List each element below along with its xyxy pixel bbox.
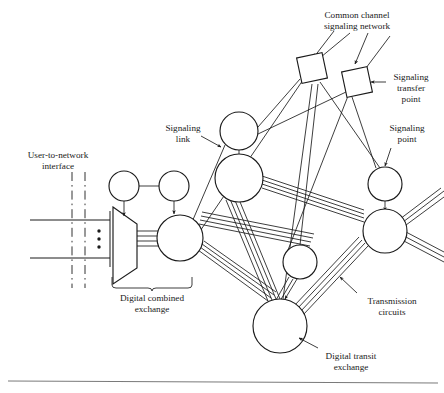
sl-line1: Signaling <box>165 123 201 133</box>
tc-line1: Transmission <box>367 296 417 306</box>
digital-combined-exchange-trapezoid[interactable] <box>113 207 159 284</box>
sp-line2: point <box>398 134 417 144</box>
label-signaling-transfer-point: Signaling transfer point <box>393 72 429 104</box>
label-digital-transit-exchange: Digital transit exchange <box>326 351 377 372</box>
label-signaling-point: Signaling point <box>389 123 425 144</box>
bottom-rule <box>8 381 438 383</box>
dce-line2: exchange <box>135 304 170 314</box>
dce-line1: Digital combined <box>120 293 184 303</box>
signaling-transfer-point-left[interactable] <box>297 53 328 84</box>
ellipsis-dot <box>97 237 100 240</box>
ellipsis-dot <box>97 245 100 248</box>
user-to-network-interface <box>30 172 110 288</box>
signaling-point-pointer <box>385 148 391 166</box>
label-transmission-circuits: Transmission circuits <box>367 296 417 317</box>
label-digital-combined-exchange: Digital combined exchange <box>120 293 184 314</box>
stp-line2: transfer <box>397 83 425 93</box>
signaling-point-right[interactable] <box>368 167 402 201</box>
dte-line1: Digital transit <box>326 351 377 361</box>
ccsn-line2: signaling network <box>324 21 390 31</box>
signaling-point-top-left[interactable] <box>109 171 139 201</box>
dte-line2: exchange <box>334 362 369 372</box>
transmission-stub-right-lower <box>402 232 444 262</box>
digital-combined-exchange-brace <box>112 277 192 291</box>
tc-line2: circuits <box>378 307 405 317</box>
figure-canvas: Common channel signaling network Signali… <box>0 0 444 393</box>
ellipsis-dot <box>97 229 100 232</box>
exchange-upper[interactable] <box>215 154 263 202</box>
ccsn-line1: Common channel <box>324 10 390 20</box>
transmission-bundle-upper-to-right-exchange <box>262 176 364 222</box>
transmission-circuits-pointer <box>340 277 357 293</box>
label-common-channel-signaling-network: Common channel signaling network <box>324 10 390 31</box>
signaling-point-top-mid[interactable] <box>159 171 189 201</box>
label-user-to-network-interface: User-to-network interface <box>28 150 89 171</box>
label-signaling-link: Signaling link <box>165 123 201 144</box>
stp-line3: point <box>402 94 421 104</box>
sl-line2: link <box>176 134 191 144</box>
digital-transit-exchange-node[interactable] <box>253 299 307 353</box>
digital-combined-exchange-node[interactable] <box>157 215 203 261</box>
stp-line1: Signaling <box>393 72 429 82</box>
uni-line1: User-to-network <box>28 150 89 160</box>
network-diagram: Common channel signaling network Signali… <box>0 0 444 393</box>
signaling-transfer-point-right[interactable] <box>342 67 373 98</box>
digital-transit-exchange-pointer <box>299 338 318 348</box>
sp-line1: Signaling <box>389 123 425 133</box>
signaling-point-upper[interactable] <box>220 112 258 150</box>
uni-line2: interface <box>42 161 74 171</box>
exchange-middle-small[interactable] <box>283 245 317 279</box>
signaling-link-pointer <box>201 136 221 147</box>
transmission-stub-right-upper <box>400 188 444 225</box>
common-channel-signaling-arrows <box>314 31 390 68</box>
exchange-right[interactable] <box>363 209 407 253</box>
